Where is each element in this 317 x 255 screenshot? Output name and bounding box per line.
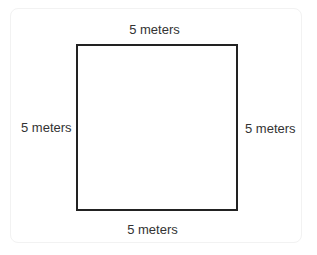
square-shape	[76, 44, 238, 211]
top-side-label: 5 meters	[0, 22, 313, 37]
left-side-label: 5 meters	[21, 120, 72, 135]
right-side-label: 5 meters	[245, 121, 296, 136]
bottom-side-label: 5 meters	[0, 222, 311, 237]
